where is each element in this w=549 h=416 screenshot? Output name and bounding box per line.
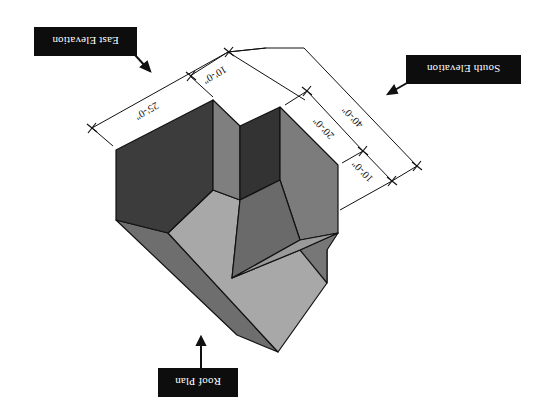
callout-south-elevation: South Elevation <box>406 55 521 84</box>
callout-east-elevation: East Elevation <box>34 27 137 56</box>
dim-10ft-top: 10'-0" <box>201 64 229 86</box>
dim-20ft: 20'-0" <box>311 115 336 141</box>
face-notch-wall <box>213 100 240 200</box>
callout-south-label: South Elevation <box>427 64 501 76</box>
building-solid <box>116 100 338 352</box>
callout-east-label: East Elevation <box>52 36 119 48</box>
dim-10ft-right: 10'-0" <box>350 158 375 184</box>
callout-roof-plan: Roof Plan <box>158 368 238 397</box>
callout-roof-label: Roof Plan <box>175 377 221 389</box>
